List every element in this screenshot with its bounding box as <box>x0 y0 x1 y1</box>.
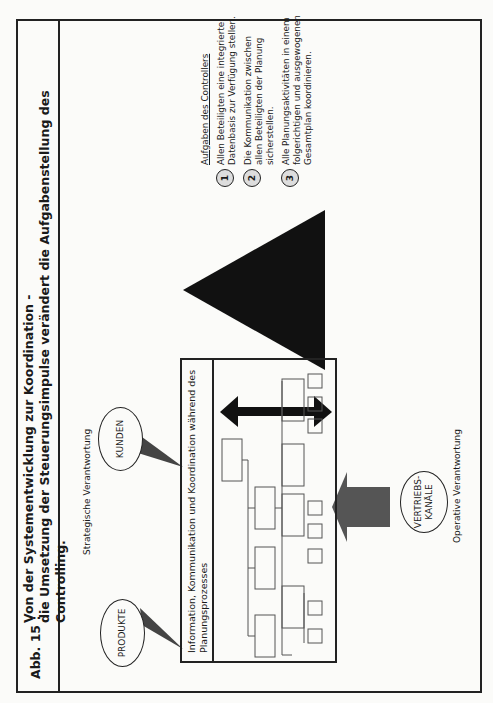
operative-label: Operative Verantwortung <box>452 429 462 543</box>
task-item: 1 Allen Beteiligten eine integrierte Dat… <box>216 15 238 165</box>
task-text: Alle Planungsaktivitäten in einem folger… <box>281 15 314 165</box>
oval-kunden: KUNDEN <box>98 407 143 471</box>
controller-tasks: Aufgaben des Controllers 1 Allen Beteili… <box>200 15 319 165</box>
vertrieb-line-1: VERTRIEBS- <box>413 476 423 529</box>
vertrieb-line-2: KANÄLE <box>424 484 434 520</box>
oval-vertrieb-label: VERTRIEBS- KANÄLE <box>413 476 435 529</box>
oval-vertriebskanaele: VERTRIEBS- KANÄLE <box>400 471 448 533</box>
task-item: 2 Die Kommunikation zwischen allen Betei… <box>243 15 276 165</box>
gray-arrow-icon <box>332 472 390 542</box>
task-item: 3 Alle Planungsaktivitäten in einem folg… <box>281 15 314 165</box>
oval-produkte-label: PRODUKTE <box>117 609 128 658</box>
tasks-header: Aufgaben des Controllers <box>200 15 211 165</box>
triangle-arrow-icon <box>183 210 325 370</box>
oval-kunden-label: KUNDEN <box>115 420 126 458</box>
strategic-label: Strategische Verantwortung <box>82 429 92 555</box>
number-badge-icon: 2 <box>243 169 261 187</box>
number-badge-icon: 3 <box>281 169 299 187</box>
document-page: Abb. 15 : Von der Systementwicklung zur … <box>0 0 493 703</box>
planning-process-box: Information, Kommunikation und Koordinat… <box>180 358 337 663</box>
planning-box-header: Information, Kommunikation und Koordinat… <box>182 360 214 661</box>
number-badge-icon: 1 <box>216 169 234 187</box>
task-text: Die Kommunikation zwischen allen Beteili… <box>243 15 276 165</box>
kunden-pointer <box>138 437 183 467</box>
task-text: Allen Beteiligten eine integrierte Daten… <box>216 15 238 165</box>
produkte-pointer <box>140 608 183 649</box>
oval-produkte: PRODUKTE <box>100 599 145 667</box>
